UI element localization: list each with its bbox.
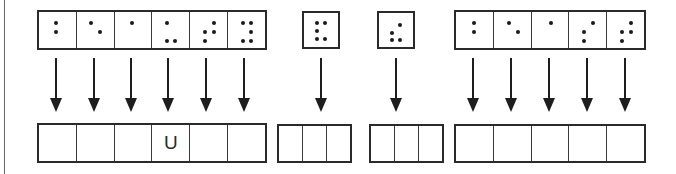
down-arrow-icon <box>624 58 626 110</box>
braille-cell <box>152 12 190 48</box>
braille-dot <box>582 39 586 43</box>
braille-dot <box>212 30 216 34</box>
answer-box[interactable] <box>607 126 644 161</box>
braille-dot <box>472 30 476 34</box>
braille-dot <box>582 30 586 34</box>
braille-dot <box>203 30 207 34</box>
braille-dot <box>315 37 319 41</box>
braille-cell <box>494 12 532 48</box>
braille-cell <box>379 13 413 47</box>
answer-box[interactable] <box>279 126 303 161</box>
braille-cell <box>532 12 570 48</box>
braille-group-1 <box>37 10 267 50</box>
braille-dot <box>98 30 102 34</box>
braille-cell <box>456 12 494 48</box>
braille-dot <box>629 30 633 34</box>
braille-dot <box>629 21 633 25</box>
answer-box[interactable] <box>303 126 327 161</box>
braille-dot <box>241 21 245 25</box>
braille-dot <box>249 21 253 25</box>
down-arrow-icon <box>510 58 512 110</box>
braille-cell <box>304 13 338 47</box>
answer-box[interactable]: U <box>152 125 190 161</box>
braille-dot <box>472 21 476 25</box>
braille-dot <box>203 39 207 43</box>
down-arrow-icon <box>130 58 132 110</box>
down-arrow-icon <box>167 58 169 110</box>
answer-box[interactable] <box>115 125 153 161</box>
answer-group-1: U <box>37 123 267 163</box>
braille-dot <box>507 21 511 25</box>
answer-box[interactable] <box>371 126 395 161</box>
answer-box[interactable] <box>532 126 570 161</box>
braille-dot <box>54 21 58 25</box>
braille-dot <box>323 37 327 41</box>
braille-dot <box>516 30 520 34</box>
answer-box[interactable] <box>77 125 115 161</box>
braille-dot <box>212 21 216 25</box>
braille-dot <box>398 23 402 27</box>
braille-dot <box>620 39 624 43</box>
answer-box[interactable] <box>228 125 265 161</box>
braille-cell <box>569 12 607 48</box>
braille-dot <box>173 39 177 43</box>
braille-dot <box>130 21 134 25</box>
braille-cell <box>607 12 644 48</box>
braille-dot <box>315 21 319 25</box>
braille-cell <box>77 12 115 48</box>
answer-group-3 <box>369 124 444 163</box>
answer-box[interactable] <box>569 126 607 161</box>
braille-dot <box>591 21 595 25</box>
braille-dot <box>249 39 253 43</box>
answer-box[interactable] <box>395 126 419 161</box>
braille-cell <box>228 12 265 48</box>
left-border-rule <box>4 0 5 174</box>
answer-box[interactable] <box>39 125 77 161</box>
down-arrow-icon <box>548 58 550 110</box>
braille-dot <box>398 38 402 42</box>
braille-group-4 <box>454 10 646 50</box>
braille-cell <box>115 12 153 48</box>
down-arrow-icon <box>320 58 322 110</box>
answer-letter: U <box>152 132 189 154</box>
down-arrow-icon <box>472 58 474 110</box>
answer-group-2 <box>277 124 352 163</box>
answer-box[interactable] <box>494 126 532 161</box>
braille-dot <box>241 39 245 43</box>
braille-group-2 <box>302 11 340 49</box>
braille-dot <box>549 21 553 25</box>
braille-dot <box>315 29 319 33</box>
braille-dot <box>249 30 253 34</box>
braille-dot <box>323 21 327 25</box>
braille-dot <box>89 21 93 25</box>
down-arrow-icon <box>55 58 57 110</box>
down-arrow-icon <box>586 58 588 110</box>
answer-group-4 <box>454 124 646 163</box>
braille-dot <box>54 30 58 34</box>
down-arrow-icon <box>395 58 397 110</box>
braille-dot <box>165 39 169 43</box>
answer-box[interactable] <box>419 126 442 161</box>
answer-box[interactable] <box>456 126 494 161</box>
braille-dot <box>620 30 624 34</box>
down-arrow-icon <box>243 58 245 110</box>
braille-group-3 <box>377 11 415 49</box>
answer-box[interactable] <box>190 125 228 161</box>
down-arrow-icon <box>205 58 207 110</box>
braille-cell <box>190 12 228 48</box>
braille-cell <box>39 12 77 48</box>
braille-dot <box>390 31 394 35</box>
down-arrow-icon <box>93 58 95 110</box>
braille-dot <box>390 38 394 42</box>
braille-dot <box>165 21 169 25</box>
answer-box[interactable] <box>327 126 350 161</box>
